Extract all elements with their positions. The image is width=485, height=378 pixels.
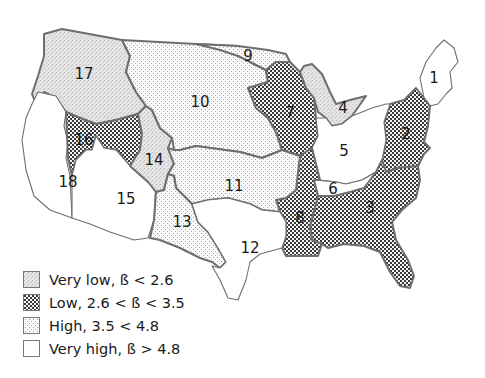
legend-item-very-low: Very low, ß < 2.6	[23, 268, 185, 291]
swatch-pattern-icon	[24, 341, 39, 356]
map-legend: Very low, ß < 2.6 Low, 2.6 < ß < 3.5 Hig…	[23, 268, 185, 360]
legend-swatch-high	[23, 317, 40, 334]
legend-label-very-high: Very high, ß > 4.8	[49, 341, 180, 357]
swatch-pattern-icon	[24, 318, 39, 333]
legend-swatch-low	[23, 294, 40, 311]
region-label-2: 2	[401, 125, 411, 143]
legend-item-very-high: Very high, ß > 4.8	[23, 337, 185, 360]
legend-label-low: Low, 2.6 < ß < 3.5	[49, 295, 185, 311]
region-1	[420, 40, 458, 106]
region-label-1: 1	[429, 69, 439, 87]
region-label-17: 17	[74, 65, 93, 83]
legend-item-high: High, 3.5 < 4.8	[23, 314, 185, 337]
legend-label-high: High, 3.5 < 4.8	[49, 318, 159, 334]
region-label-11: 11	[224, 177, 243, 195]
region-label-18: 18	[58, 173, 77, 191]
region-label-7: 7	[285, 104, 295, 122]
legend-swatch-very-low	[23, 271, 40, 288]
region-label-12: 12	[240, 239, 259, 257]
region-label-5: 5	[339, 142, 349, 160]
region-label-13: 13	[172, 213, 191, 231]
legend-swatch-very-high	[23, 340, 40, 357]
swatch-pattern-icon	[24, 295, 39, 310]
swatch-pattern-icon	[24, 272, 39, 287]
region-label-6: 6	[328, 180, 338, 198]
legend-label-very-low: Very low, ß < 2.6	[49, 272, 173, 288]
region-18	[22, 92, 72, 218]
region-label-8: 8	[295, 209, 305, 227]
region-label-14: 14	[144, 151, 163, 169]
region-label-4: 4	[338, 99, 348, 117]
region-label-16: 16	[74, 131, 93, 149]
legend-item-low: Low, 2.6 < ß < 3.5	[23, 291, 185, 314]
region-label-10: 10	[190, 93, 209, 111]
region-label-3: 3	[365, 199, 375, 217]
region-label-9: 9	[243, 47, 253, 65]
region-label-15: 15	[116, 190, 135, 208]
